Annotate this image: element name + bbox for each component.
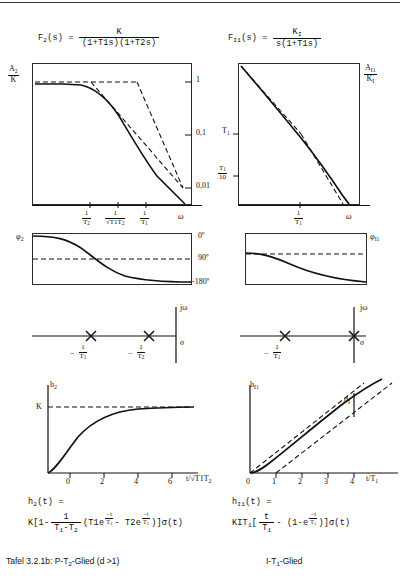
left-pz-imag-label: jω bbox=[180, 303, 188, 312]
right-step-ylabel: hI1 bbox=[250, 380, 259, 390]
left-bode-tick-1: 1 bbox=[196, 75, 200, 84]
header-rule bbox=[0, 2, 400, 3]
phase-tick-180deg: -180º bbox=[192, 277, 209, 286]
right-pz-imag-label: jω bbox=[360, 303, 368, 312]
right-tf-numerator: KI bbox=[273, 27, 321, 38]
left-bode-ylabel-num: A2 bbox=[8, 65, 19, 75]
left-bode-magnitude-plot bbox=[32, 63, 192, 205]
right-bode-xticks bbox=[238, 200, 370, 210]
left-bode-tick-01: 0,1 bbox=[196, 128, 206, 137]
right-bode-ylabel-num: AI1 bbox=[364, 64, 377, 74]
caption-right: I-T1-Glied bbox=[266, 556, 303, 567]
right-bode-ylabel: AI1 KI bbox=[364, 64, 377, 84]
right-transfer-function: FI1(s) = KI s(1+T1s) bbox=[228, 27, 321, 49]
left-tf-fraction: K (1+T1s)(1+T2s) bbox=[79, 27, 159, 48]
left-step-xtick-0: 0 bbox=[66, 477, 70, 486]
right-xtick-1-over-T1: 1 T1 bbox=[294, 208, 303, 226]
right-phase-curve bbox=[246, 234, 366, 284]
right-bode-magnitude-curve bbox=[239, 64, 359, 204]
right-time-equation-line2: KIT1[ t T1 - (1-e −t T1 )]σ(t) bbox=[232, 512, 350, 534]
right-bode-tick-T1: T1 bbox=[222, 126, 230, 136]
right-time-equation-line1: hI1(t) = bbox=[232, 497, 272, 508]
left-phase-ylabel: φ2 bbox=[16, 232, 24, 242]
right-step-response-plot bbox=[232, 385, 400, 483]
right-bode-tick-T1-over-10: T1 10 bbox=[218, 163, 227, 181]
left-tf-lhs: F2(s) = bbox=[38, 33, 74, 43]
tafel-page: F2(s) = K (1+T1s)(1+T2s) A2 K 1 0,1 0,01 bbox=[0, 0, 400, 580]
left-xtick-1-over-sqrtT1T2: 1 √T1T2 bbox=[105, 208, 125, 226]
left-time-equation-line2: K[1- 1 T1-T2 (T1e −t T1 - T2e −t T2 )]σ(… bbox=[28, 512, 183, 534]
left-pole-zero-plot bbox=[26, 305, 196, 363]
left-time-equation-line1: h2(t) = bbox=[28, 497, 64, 508]
right-bode-ylabel-den: KI bbox=[364, 74, 377, 85]
right-step-xaxis-label: t/T1 bbox=[366, 474, 378, 484]
right-step-annotation: dI bbox=[344, 395, 350, 405]
left-step-response-plot bbox=[30, 385, 200, 483]
left-xtick-1-over-T1: 1 T1 bbox=[140, 208, 149, 226]
right-phase-ylabel: φI1 bbox=[370, 232, 379, 242]
left-step-xaxis-label: t/√T1T2 bbox=[186, 474, 212, 484]
phase-tick-0deg: 0º bbox=[198, 231, 204, 240]
right-pole-zero-plot bbox=[236, 305, 396, 363]
right-tf-denominator: s(1+T1s) bbox=[273, 38, 321, 49]
right-step-xtick-4: 4 bbox=[350, 477, 354, 486]
left-phase-plot bbox=[32, 233, 192, 285]
right-tf-lhs: FI1(s) = bbox=[228, 33, 268, 43]
right-step-xtick-0: 0 bbox=[246, 477, 250, 486]
left-step-xtick-6: 6 bbox=[168, 477, 172, 486]
right-pz-real-label: σ bbox=[360, 338, 364, 347]
right-pz-pole1-label: − 1 T1 bbox=[264, 342, 281, 360]
caption-left: Tafel 3.2.1b: P-T2-Glied (d >1) bbox=[6, 556, 119, 567]
right-step-xtick-1: 1 bbox=[272, 477, 276, 486]
left-xtick-1-over-T2: 1 T2 bbox=[82, 208, 91, 226]
left-bode-tick-001: 0,01 bbox=[196, 181, 210, 190]
right-bode-magnitude-plot bbox=[238, 63, 360, 205]
left-bode-xaxis-label: ω bbox=[178, 212, 184, 221]
left-tf-denominator: (1+T1s)(1+T2s) bbox=[79, 37, 159, 48]
right-step-xtick-3: 3 bbox=[324, 477, 328, 486]
left-step-xtick-2: 2 bbox=[100, 477, 104, 486]
left-bode-magnitude-curve bbox=[33, 64, 191, 204]
right-bode-xaxis-label: ω bbox=[346, 212, 352, 221]
right-step-xtick-2: 2 bbox=[298, 477, 302, 486]
phase-tick-90deg: 90º bbox=[198, 253, 208, 262]
left-bode-ylabel: A2 K bbox=[8, 64, 19, 84]
left-pz-real-label: σ bbox=[180, 338, 184, 347]
right-phase-plot bbox=[245, 233, 367, 285]
left-phase-curve bbox=[33, 234, 191, 284]
left-bode-ylabel-den: K bbox=[8, 75, 19, 84]
left-pz-pole1-label: − 1 T1 bbox=[70, 342, 87, 360]
left-tf-numerator: K bbox=[79, 27, 159, 37]
left-step-xtick-4: 4 bbox=[134, 477, 138, 486]
left-transfer-function: F2(s) = K (1+T1s)(1+T2s) bbox=[38, 27, 159, 48]
left-step-asymptote-label: K bbox=[36, 402, 42, 411]
left-pz-pole2-label: − 1 T2 bbox=[128, 342, 145, 360]
left-step-ylabel: h2 bbox=[50, 380, 57, 390]
right-tf-fraction: KI s(1+T1s) bbox=[273, 27, 321, 49]
